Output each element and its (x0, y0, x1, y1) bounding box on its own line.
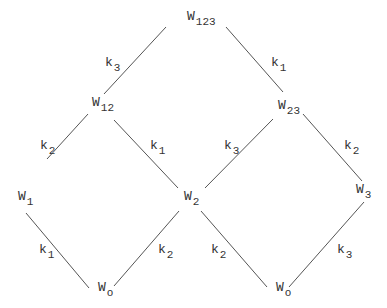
node-W23-subscript: 23 (287, 105, 300, 117)
edge-label-Wo_right-W2-subscript: 2 (220, 249, 227, 261)
edge-label-Wo_right-W2: k2 (211, 243, 226, 256)
edge-label-Wo_left-W1-subscript: 1 (48, 249, 55, 261)
node-W2-subscript: 2 (193, 196, 200, 208)
edge-label-Wo_left-W1: k1 (39, 243, 54, 256)
node-W3-base: W (356, 182, 364, 197)
edge-label-W2-W12: k1 (150, 139, 165, 152)
edge-label-W23-W123: k1 (271, 56, 286, 69)
node-Wo_left: Wo (98, 281, 113, 294)
node-Wo_right-base: W (276, 280, 284, 295)
edge-label-W1-W12-base: k (40, 138, 48, 153)
node-W12-subscript: 12 (101, 102, 114, 114)
edge-W2-W23 (205, 119, 273, 188)
node-W23: W23 (278, 99, 300, 112)
node-W23-base: W (278, 98, 286, 113)
edge-label-Wo_right-W3-base: k (337, 242, 345, 257)
node-W123-base: W (187, 9, 195, 24)
node-W3-subscript: 3 (365, 189, 372, 201)
node-W3: W3 (356, 183, 371, 196)
edge-label-Wo_left-W2: k2 (158, 243, 173, 256)
edge-label-Wo_left-W2-base: k (158, 242, 166, 257)
node-Wo_left-base: W (98, 280, 106, 295)
edge-label-W12-W123-subscript: 3 (114, 62, 121, 74)
lattice-diagram: k3k1k2k1k3k2k1k2k2k3W123W12W23W1W2W3WoWo (0, 0, 387, 308)
edge-label-W23-W123-subscript: 1 (280, 62, 287, 74)
edge-label-W2-W23: k3 (224, 139, 239, 152)
node-Wo_right-subscript: o (285, 287, 292, 299)
edge-label-Wo_right-W3-subscript: 3 (346, 249, 353, 261)
edge-label-W2-W23-base: k (224, 138, 232, 153)
edge-label-W3-W23-base: k (344, 138, 352, 153)
node-W12-base: W (92, 95, 100, 110)
edge-Wo_right-W3 (289, 202, 364, 287)
node-W2: W2 (184, 190, 199, 203)
node-W12: W12 (92, 96, 114, 109)
edge-label-W3-W23-subscript: 2 (353, 145, 360, 157)
node-W2-base: W (184, 189, 192, 204)
edge-label-W2-W12-subscript: 1 (159, 145, 166, 157)
edge-label-W1-W12-subscript: 2 (49, 145, 56, 157)
node-W123-subscript: 123 (196, 16, 216, 28)
edge-label-Wo_right-W3: k3 (337, 243, 352, 256)
edge-label-W2-W12-base: k (150, 138, 158, 153)
node-W123: W123 (187, 10, 216, 23)
node-Wo_left-subscript: o (107, 287, 114, 299)
node-W1-base: W (18, 189, 26, 204)
edge-label-W3-W23: k2 (344, 139, 359, 152)
node-W1-subscript: 1 (27, 196, 34, 208)
edge-label-W2-W23-subscript: 3 (233, 145, 240, 157)
edge-Wo_left-W1 (26, 213, 89, 288)
edge-label-W12-W123: k3 (105, 56, 120, 69)
node-Wo_right: Wo (276, 281, 291, 294)
edge-label-W12-W123-base: k (105, 55, 113, 70)
edge-label-W1-W12: k2 (40, 139, 55, 152)
edge-label-Wo_left-W2-subscript: 2 (167, 249, 174, 261)
edge-label-W23-W123-base: k (271, 55, 279, 70)
edge-label-Wo_right-W2-base: k (211, 242, 219, 257)
node-W1: W1 (18, 190, 33, 203)
edges-layer (0, 0, 387, 308)
edge-W2-W12 (114, 120, 178, 188)
edge-label-Wo_left-W1-base: k (39, 242, 47, 257)
